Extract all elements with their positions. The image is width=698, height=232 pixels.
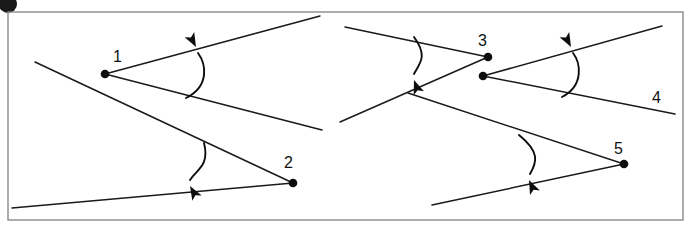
vertex-label-3: 3	[478, 32, 487, 49]
vertex-5-dot	[620, 160, 629, 169]
angle-arc-5	[519, 135, 535, 174]
vertex-2-dot	[289, 179, 298, 188]
ray-5-baseline	[432, 164, 624, 205]
figure-frame	[8, 12, 683, 220]
angle-arc-1	[186, 53, 204, 98]
line-5-diagonal	[408, 93, 624, 164]
vertex-3-dot	[484, 53, 493, 62]
ray-4-upper	[483, 26, 662, 76]
vertex-label-4: 4	[652, 89, 661, 106]
ray-1-upper	[105, 16, 320, 74]
rays-group	[12, 16, 675, 208]
vertex-label-5: 5	[614, 140, 623, 157]
ray-1-lower	[105, 74, 322, 130]
angle-arc-5-arrowhead-icon	[524, 178, 540, 195]
vertex-label-1: 1	[113, 48, 122, 65]
angle-arc-1-arrowhead-icon	[185, 32, 201, 49]
line-left-diagonal	[35, 62, 293, 183]
vertex-4-dot	[479, 72, 488, 81]
vertex-1-dot	[101, 70, 110, 79]
angle-arc-4	[562, 53, 579, 97]
angle-arc-2	[190, 143, 205, 180]
corner-bullet-icon	[0, 0, 17, 13]
ray-4-lower	[483, 76, 675, 114]
angle-arc-4-arrowhead-icon	[560, 32, 576, 49]
angles-figure: 1 2 3 4 5	[0, 0, 698, 232]
ray-2-baseline	[12, 183, 293, 208]
vertex-label-2: 2	[284, 154, 293, 171]
angle-arcs-group	[185, 32, 579, 201]
vertex-dots-group	[101, 53, 629, 188]
figure-page: 1 2 3 4 5	[0, 0, 698, 232]
